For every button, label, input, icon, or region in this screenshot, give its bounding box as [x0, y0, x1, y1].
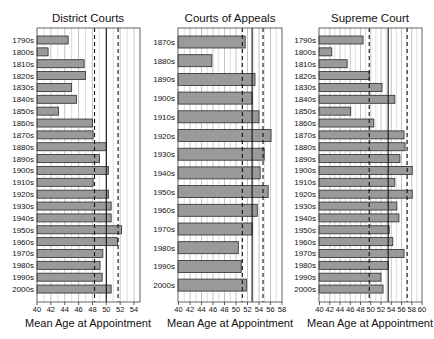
panel-title: Supreme Court: [331, 12, 410, 24]
bar-1820s: [319, 72, 369, 80]
panel-supreme-court: 1790s1800s1810s1820s1830s1840s1850s1860s…: [294, 12, 433, 329]
bar-1920s: [178, 130, 271, 142]
category-label: 1940s: [12, 214, 34, 223]
category-label: 1810s: [12, 60, 34, 69]
bar-1880s: [319, 143, 405, 151]
bar-1880s: [37, 143, 106, 151]
x-tick-label: 44: [336, 305, 344, 314]
bar-1790s: [37, 36, 68, 44]
category-label: 1820s: [294, 72, 316, 81]
bar-1850s: [37, 107, 58, 115]
bar-1910s: [178, 111, 259, 123]
bar-1830s: [319, 83, 382, 91]
bar-1970s: [37, 249, 103, 257]
category-label: 1980s: [153, 244, 175, 253]
bar-1980s: [319, 261, 388, 269]
x-tick-label: 44: [61, 305, 69, 314]
category-label: 1910s: [153, 113, 175, 122]
category-label: 1880s: [294, 143, 316, 152]
bar-2000s: [178, 279, 246, 291]
x-tick-label: 50: [232, 305, 240, 314]
category-label: 1950s: [153, 188, 175, 197]
x-tick-label: 48: [356, 305, 364, 314]
category-label: 1880s: [153, 57, 175, 66]
bar-1900s: [178, 92, 252, 104]
bar-1910s: [37, 178, 93, 186]
bar-1960s: [319, 238, 393, 246]
bar-1990s: [178, 260, 241, 272]
category-label: 1970s: [153, 225, 175, 234]
category-label: 1900s: [12, 166, 34, 175]
x-tick-label: 44: [197, 305, 205, 314]
bar-1950s: [37, 226, 122, 234]
category-label: 1990s: [12, 273, 34, 282]
category-label: 1830s: [12, 83, 34, 92]
category-label: 1970s: [12, 249, 34, 258]
bar-1810s: [37, 60, 84, 68]
category-label: 1960s: [153, 206, 175, 215]
x-tick-label: 40: [33, 305, 41, 314]
x-axis-title: Mean Age at Appointment: [167, 317, 293, 329]
bar-1970s: [178, 223, 252, 235]
bar-1950s: [319, 226, 389, 234]
category-label: 1870s: [294, 131, 316, 140]
x-tick-label: 42: [326, 305, 334, 314]
plot-frame: [37, 28, 140, 302]
x-tick-label: 56: [266, 305, 274, 314]
category-label: 2000s: [153, 281, 175, 290]
category-label: 1930s: [12, 202, 34, 211]
category-label: 1840s: [12, 95, 34, 104]
x-tick-label: 50: [367, 305, 375, 314]
bar-2000s: [37, 285, 111, 293]
panel-title: District Courts: [52, 12, 124, 24]
bar-1890s: [178, 73, 255, 85]
bar-1790s: [319, 36, 363, 44]
category-label: 1800s: [12, 48, 34, 57]
category-label: 1990s: [294, 273, 316, 282]
category-label: 1920s: [294, 190, 316, 199]
category-label: 1980s: [294, 261, 316, 270]
x-tick-label: 52: [377, 305, 385, 314]
category-label: 1940s: [153, 169, 175, 178]
category-label: 1790s: [294, 36, 316, 45]
category-label: 1940s: [294, 214, 316, 223]
bar-1900s: [37, 166, 108, 174]
category-label: 1870s: [12, 131, 34, 140]
x-tick-label: 52: [243, 305, 251, 314]
category-label: 1870s: [153, 38, 175, 47]
category-label: 1950s: [12, 226, 34, 235]
bar-1950s: [178, 186, 268, 198]
bar-1960s: [37, 238, 117, 246]
category-label: 1790s: [12, 36, 34, 45]
x-tick-label: 46: [346, 305, 354, 314]
category-label: 1820s: [12, 72, 34, 81]
x-tick-label: 50: [102, 305, 110, 314]
category-label: 1850s: [294, 107, 316, 116]
category-label: 1960s: [12, 238, 34, 247]
x-tick-label: 48: [220, 305, 228, 314]
bar-1910s: [319, 178, 395, 186]
bar-1980s: [37, 261, 100, 269]
x-tick-label: 46: [74, 305, 82, 314]
category-label: 1900s: [294, 166, 316, 175]
bar-1990s: [319, 273, 381, 281]
bar-1980s: [178, 242, 238, 254]
bar-1970s: [319, 249, 404, 257]
bar-1930s: [178, 148, 264, 160]
panel-courts-of-appeals: 1870s1880s1890s1900s1910s1920s1930s1940s…: [153, 12, 293, 329]
bar-1920s: [319, 190, 412, 198]
bar-1940s: [319, 214, 399, 222]
panel-district-courts: 1790s1800s1810s1820s1830s1840s1850s1860s…: [12, 12, 151, 329]
x-tick-label: 58: [408, 305, 416, 314]
bar-2000s: [319, 285, 383, 293]
category-label: 1920s: [12, 190, 34, 199]
category-label: 1910s: [294, 178, 316, 187]
category-label: 1890s: [153, 75, 175, 84]
category-label: 1920s: [153, 132, 175, 141]
bar-1800s: [37, 48, 48, 56]
bar-1840s: [319, 95, 395, 103]
bar-1880s: [178, 55, 212, 67]
category-label: 1800s: [294, 48, 316, 57]
bar-1850s: [319, 107, 351, 115]
x-tick-label: 60: [418, 305, 426, 314]
